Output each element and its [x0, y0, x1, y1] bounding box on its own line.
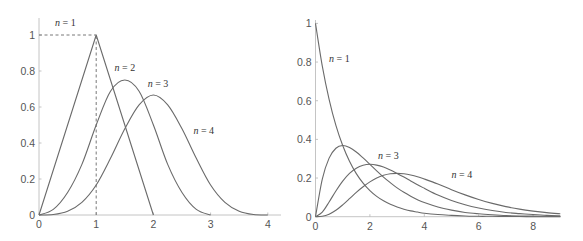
left-chart: 0123400.20.40.60.81n = 1n = 2n = 3n = 4	[20, 17, 281, 230]
x-tick-label: 4	[265, 218, 271, 230]
x-tick-label: 3	[208, 218, 214, 230]
x-tick-label: 0	[36, 218, 42, 230]
series-curve-1	[316, 23, 561, 216]
x-tick-label: 8	[530, 220, 536, 232]
series-label: n = 4	[193, 125, 214, 136]
y-tick-label: 0.8	[297, 56, 312, 68]
series-curve-4	[39, 95, 268, 215]
y-tick-label: 1	[29, 29, 35, 41]
x-tick-label: 6	[476, 220, 482, 232]
series-label: n = 3	[378, 150, 399, 161]
x-tick-label: 1	[93, 218, 99, 230]
series-curve-2	[316, 146, 561, 217]
y-tick-label: 0.8	[20, 65, 35, 77]
series-label: n = 1	[55, 17, 76, 28]
y-tick-label: 0	[29, 209, 35, 221]
figure: 0123400.20.40.60.81n = 1n = 2n = 3n = 4 …	[0, 0, 583, 241]
y-tick-label: 0.2	[20, 173, 35, 185]
y-tick-label: 0	[306, 211, 312, 223]
y-tick-label: 0.2	[297, 172, 312, 184]
y-tick-label: 0.6	[20, 101, 35, 113]
series-curve-3	[39, 80, 211, 215]
series-curve-3	[316, 164, 561, 216]
series-label: n = 2	[115, 62, 136, 73]
right-chart: 0246800.20.40.60.81n = 1n = 3n = 4	[297, 17, 561, 231]
series-label: n = 3	[148, 78, 169, 89]
series-label: n = 1	[329, 53, 350, 64]
y-tick-label: 0.4	[297, 133, 312, 145]
x-tick-label: 2	[367, 220, 373, 232]
x-tick-label: 4	[421, 220, 427, 232]
y-tick-label: 0.6	[297, 95, 312, 107]
x-tick-label: 0	[313, 220, 319, 232]
x-tick-label: 2	[150, 218, 156, 230]
y-tick-label: 0.4	[20, 137, 35, 149]
y-tick-label: 1	[306, 17, 312, 29]
series-label: n = 4	[452, 169, 473, 180]
